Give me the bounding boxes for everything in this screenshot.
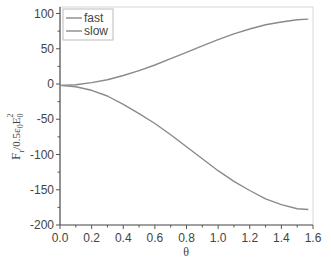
y-tick-label: 0 — [47, 77, 54, 91]
y-tick-label: 100 — [34, 7, 54, 21]
x-tick-label: 1.0 — [210, 231, 227, 245]
legend-label-slow: slow — [84, 24, 108, 38]
line-chart: 100500-50-100-150-200 0.00.20.40.60.81.0… — [0, 0, 331, 267]
y-tick-label: -200 — [30, 218, 54, 232]
legend: fastslow — [63, 9, 113, 40]
x-tick-label: 0.2 — [83, 231, 100, 245]
x-tick-label: 0.8 — [178, 231, 195, 245]
x-tick-label: 0.0 — [52, 231, 69, 245]
y-tick-label: -150 — [30, 183, 54, 197]
series-line-slow — [60, 85, 308, 209]
legend-label-fast: fast — [84, 11, 104, 25]
x-tick-label: 1.4 — [273, 231, 290, 245]
x-tick-label: 0.4 — [115, 231, 132, 245]
y-axis-label: Fr/0.5ε0E02 — [6, 114, 26, 160]
y-axis: 100500-50-100-150-200 — [30, 7, 60, 233]
y-tick-label: -100 — [30, 148, 54, 162]
y-tick-label: 50 — [41, 42, 55, 56]
series-lines — [60, 19, 308, 209]
x-tick-label: 0.6 — [147, 231, 164, 245]
x-axis: 0.00.20.40.60.81.01.21.41.6 — [52, 225, 322, 245]
x-axis-label: θ — [183, 245, 189, 259]
x-tick-label: 1.6 — [305, 231, 322, 245]
y-tick-label: -50 — [37, 112, 55, 126]
x-tick-label: 1.2 — [241, 231, 258, 245]
